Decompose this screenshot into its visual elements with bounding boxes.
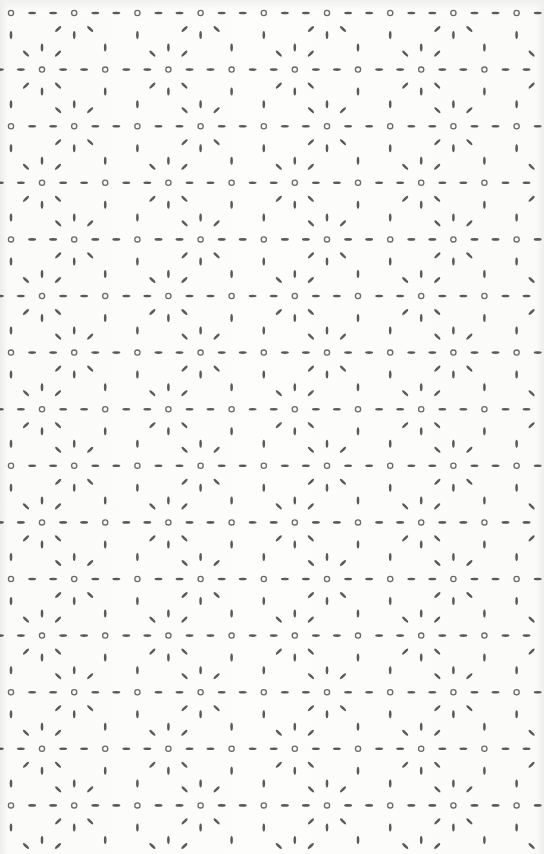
star-spoke-dash: [213, 818, 220, 825]
star-spoke-dash: [434, 252, 441, 259]
column-dash: [167, 88, 170, 96]
column-dash: [326, 440, 329, 448]
ring-dot: [229, 67, 234, 72]
row-dash: [59, 521, 67, 524]
ring-dot: [135, 237, 140, 242]
row-dash: [471, 578, 479, 581]
row-dash: [365, 691, 373, 694]
ring-dot: [103, 67, 108, 72]
star-spoke-dash: [434, 446, 441, 453]
row-dash: [344, 691, 352, 694]
star-spoke-dash: [528, 82, 535, 89]
column-dash: [389, 371, 392, 379]
row-dash: [49, 125, 57, 128]
row-dash: [49, 12, 57, 15]
row-dash: [176, 238, 184, 241]
column-dash: [104, 201, 107, 209]
row-dash: [249, 634, 257, 637]
column-dash: [483, 88, 486, 96]
column-dash: [263, 710, 266, 718]
star-spoke-dash: [181, 729, 188, 736]
star-spoke-dash: [401, 535, 408, 542]
row-dash: [365, 125, 373, 128]
column-dash: [420, 44, 423, 52]
star-spoke-dash: [401, 648, 408, 655]
star-spoke-dash: [307, 389, 314, 396]
column-dash: [294, 540, 297, 548]
star-spoke-dash: [86, 704, 93, 711]
star-spoke-dash: [54, 842, 61, 849]
row-dash: [344, 804, 352, 807]
ring-dot: [198, 576, 203, 581]
star-spoke-dash: [339, 220, 346, 227]
column-dash: [136, 710, 139, 718]
star-spoke-dash: [307, 276, 314, 283]
star-spoke-dash: [54, 195, 61, 202]
column-dash: [41, 201, 44, 209]
ring-dot: [39, 180, 44, 185]
star-spoke-dash: [86, 220, 93, 227]
row-dash: [249, 182, 257, 185]
column-dash: [10, 100, 13, 108]
row-dash: [218, 691, 226, 694]
column-dash: [294, 767, 297, 775]
star-spoke-dash: [86, 138, 93, 145]
ring-dot: [261, 463, 266, 468]
column-dash: [10, 440, 13, 448]
column-dash: [41, 314, 44, 322]
row-dash: [28, 238, 36, 241]
row-dash: [396, 295, 404, 298]
ring-dot: [388, 350, 393, 355]
row-dash: [17, 521, 25, 524]
ring-dot: [229, 407, 234, 412]
column-dash: [515, 710, 518, 718]
ring-dot: [451, 576, 456, 581]
ring-dot: [388, 124, 393, 129]
column-dash: [10, 327, 13, 335]
column-dash: [199, 100, 202, 108]
row-dash: [502, 634, 510, 637]
ring-dot: [324, 237, 329, 242]
row-dash: [49, 351, 57, 354]
column-dash: [420, 496, 423, 504]
star-spoke-dash: [22, 503, 29, 510]
column-dash: [293, 383, 296, 391]
row-dash: [0, 408, 4, 411]
star-spoke-dash: [22, 276, 29, 283]
row-dash: [438, 68, 446, 71]
row-dash: [523, 68, 531, 71]
column-dash: [230, 496, 233, 504]
row-dash: [0, 182, 4, 185]
ring-dot: [261, 350, 266, 355]
star-spoke-dash: [149, 842, 156, 849]
column-dash: [294, 836, 297, 844]
column-dash: [389, 597, 392, 605]
column-dash: [515, 371, 518, 379]
row-dash: [534, 12, 542, 15]
column-dash: [73, 779, 76, 787]
row-dash: [80, 521, 88, 524]
star-spoke-dash: [307, 842, 314, 849]
ring-dot: [355, 293, 360, 298]
column-dash: [73, 484, 76, 492]
column-dash: [263, 553, 266, 561]
column-dash: [199, 371, 202, 379]
column-dash: [294, 723, 297, 731]
ring-dot: [514, 124, 519, 129]
column-dash: [104, 610, 107, 618]
column-dash: [515, 440, 518, 448]
row-dash: [407, 578, 415, 581]
column-dash: [41, 44, 44, 52]
row-dash: [438, 521, 446, 524]
row-dash: [407, 804, 415, 807]
column-dash: [167, 654, 170, 662]
row-dash: [28, 12, 36, 15]
star-spoke-dash: [307, 559, 314, 566]
column-dash: [10, 484, 13, 492]
star-spoke-dash: [433, 389, 440, 396]
column-dash: [199, 144, 202, 152]
star-spoke-dash: [213, 252, 220, 259]
star-spoke-dash: [401, 276, 408, 283]
star-spoke-dash: [466, 333, 473, 340]
star-spoke-dash: [307, 220, 314, 227]
